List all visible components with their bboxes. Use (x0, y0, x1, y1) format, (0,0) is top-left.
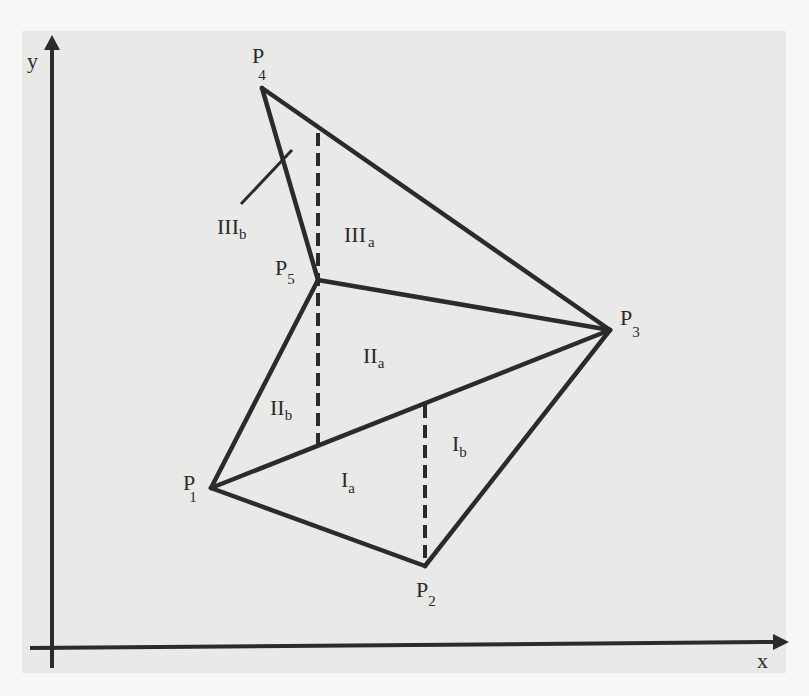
x-axis-label: x (757, 648, 768, 673)
coordinate-axes: y x (27, 35, 789, 673)
vertex-labels: P4 P5 P3 P1 P2 (183, 43, 640, 609)
x-axis-arrow-icon (773, 634, 789, 650)
region-label-IIb: IIb (270, 395, 292, 423)
region-label-Ib: Ib (452, 431, 467, 460)
region-label-Ia: Ia (341, 467, 355, 496)
polygon-subdivision-diagram: y x P4 P5 P3 P1 P2 I (0, 0, 809, 696)
polygon-edges (211, 88, 610, 566)
vertex-label-p5: P5 (275, 255, 295, 287)
y-axis-arrow-icon (44, 35, 60, 50)
vertex-label-p3: P3 (620, 305, 640, 340)
edge-p4-p3 (262, 88, 610, 330)
edge-p4-p5 (262, 88, 318, 280)
y-axis-label: y (27, 48, 38, 73)
region-label-IIIb: IIIb (217, 214, 246, 242)
x-axis (30, 642, 775, 648)
region-labels: IIIb IIIa IIa IIb Ib Ia (217, 214, 467, 496)
edge-p1-p2 (211, 488, 425, 566)
region-label-IIIa: IIIa (344, 222, 375, 250)
edge-p1-p5 (211, 280, 318, 488)
vertex-label-p4: P4 (252, 43, 266, 83)
vertex-label-p2: P2 (416, 577, 436, 609)
leader-line-IIIb (241, 150, 292, 204)
edge-p5-p3 (318, 280, 610, 330)
vertex-label-p1: P1 (183, 470, 197, 505)
region-label-IIa: IIa (363, 343, 385, 371)
figure-page: y x P4 P5 P3 P1 P2 I (0, 0, 809, 696)
